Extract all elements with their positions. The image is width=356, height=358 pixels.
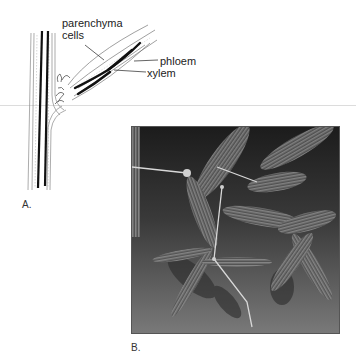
label-cells: cells [62,29,123,41]
mimosa-leaf-photo [131,126,340,334]
label-xylem: xylem [147,67,176,79]
panel-b-label: B. [131,342,140,353]
label-phloem: phloem [160,55,196,67]
label-parenchyma: parenchyma [62,17,123,29]
label-parenchyma-cells: parenchyma cells [62,17,123,41]
figure: parenchyma cells phloem xylem A. [0,0,356,358]
panel-a-label: A. [22,199,31,210]
